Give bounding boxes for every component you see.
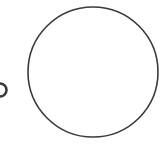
diagram-canvas bbox=[0, 0, 167, 161]
